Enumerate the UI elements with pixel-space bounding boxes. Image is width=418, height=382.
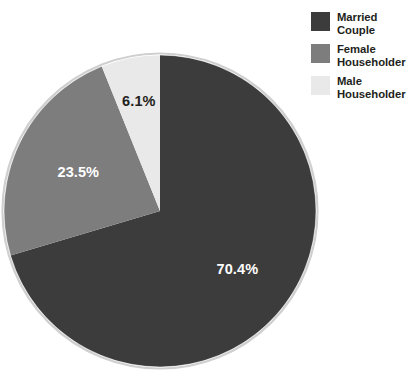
legend-swatch-married-couple [311, 12, 330, 31]
pie-chart-area: 70.4% 23.5% 6.1% [0, 0, 320, 382]
pie-chart-figure: 70.4% 23.5% 6.1% Married Couple Female H… [0, 0, 418, 382]
legend-label-line2: Householder [337, 88, 406, 100]
legend-label-line2: Couple [337, 24, 375, 36]
legend-swatch-female-householder [311, 44, 330, 63]
legend-label-line1: Married [337, 11, 377, 23]
legend-swatch-male-householder [311, 76, 330, 95]
legend-item-married-couple[interactable]: Married Couple [311, 11, 415, 36]
legend-item-female-householder[interactable]: Female Householder [311, 43, 415, 68]
legend-label-married-couple: Married Couple [337, 11, 377, 36]
legend-item-male-householder[interactable]: Male Householder [311, 75, 415, 100]
legend-label-female-householder: Female Householder [337, 43, 406, 68]
pie-chart-svg [0, 0, 320, 382]
legend-label-line2: Householder [337, 56, 406, 68]
chart-legend: Married Couple Female Householder Male H… [311, 11, 415, 108]
legend-label-line1: Female [337, 43, 376, 55]
legend-label-male-householder: Male Householder [337, 75, 406, 100]
legend-label-line1: Male [337, 75, 362, 87]
